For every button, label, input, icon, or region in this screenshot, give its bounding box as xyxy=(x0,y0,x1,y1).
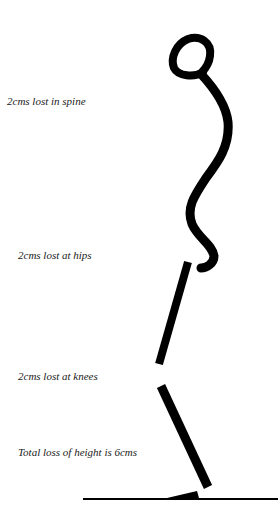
foot-icon xyxy=(167,491,199,498)
thigh-icon xyxy=(159,262,188,364)
height-loss-diagram: 2cms lost in spine 2cms lost at hips 2cm… xyxy=(0,0,278,528)
spine-icon xyxy=(190,74,228,268)
lower-leg-icon xyxy=(161,386,208,487)
stooped-figure xyxy=(0,0,278,528)
head-icon xyxy=(173,38,210,76)
